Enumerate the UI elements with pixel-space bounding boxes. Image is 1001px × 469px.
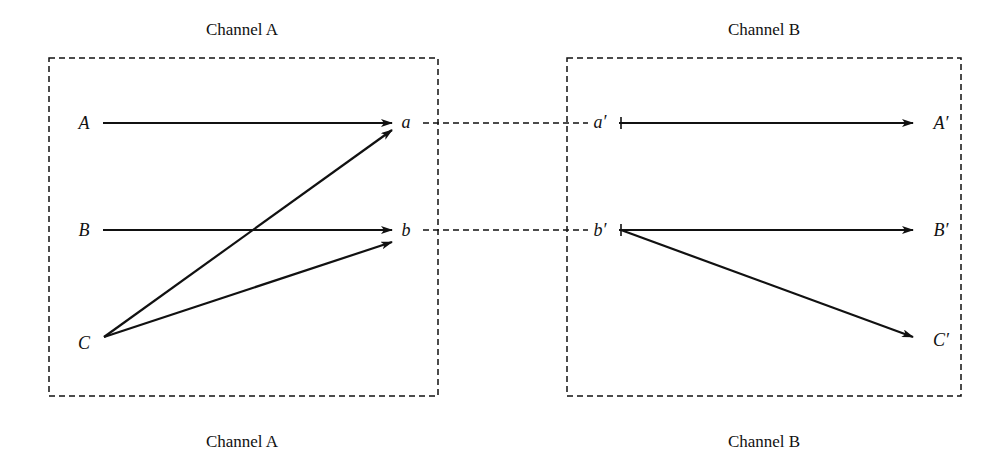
channel-b-title-top: Channel B	[728, 20, 800, 39]
node-C: C	[78, 333, 91, 353]
channel-a-box	[49, 58, 438, 396]
node-A-prime: A′	[933, 113, 950, 133]
channel-a-title-bottom: Channel A	[206, 432, 279, 451]
edge-C-b	[104, 242, 392, 337]
node-b: b	[402, 220, 411, 240]
channel-b-title-bottom: Channel B	[728, 432, 800, 451]
node-B: B	[79, 220, 90, 240]
channel-b-box	[567, 58, 961, 396]
channel-a-title-top: Channel A	[206, 20, 279, 39]
channel-diagram: Channel A Channel B Channel A Channel B …	[0, 0, 1001, 469]
node-a: a	[402, 112, 411, 132]
node-B-prime: B′	[934, 220, 950, 240]
edge-C-a	[104, 130, 392, 337]
node-b-prime: b′	[594, 220, 608, 240]
node-C-prime: C′	[933, 330, 950, 350]
edge-b-prime-C-prime	[621, 230, 913, 337]
node-A: A	[78, 113, 91, 133]
node-a-prime: a′	[594, 112, 608, 132]
